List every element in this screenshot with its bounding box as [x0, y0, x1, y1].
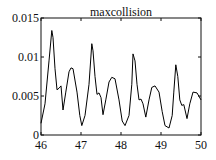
axes-box: [41, 18, 201, 135]
x-axis-ticks: 4647484950: [35, 18, 207, 152]
x-tick-label: 48: [115, 138, 127, 152]
y-tick-label: 0: [33, 128, 39, 142]
x-tick-label: 50: [195, 138, 207, 152]
y-tick-label: 0.01: [18, 50, 39, 64]
chart-title: maxcollision: [90, 5, 152, 19]
y-tick-label: 0.005: [12, 89, 39, 103]
line-chart: 4647484950 00.0050.010.015 maxcollision: [0, 0, 216, 160]
x-tick-label: 47: [75, 138, 87, 152]
maxcollision-series-line: [41, 31, 201, 129]
y-tick-label: 0.015: [12, 11, 39, 25]
plot-area: 4647484950 00.0050.010.015: [12, 11, 207, 152]
x-tick-label: 49: [155, 138, 167, 152]
y-axis-ticks: 00.0050.010.015: [12, 11, 201, 142]
